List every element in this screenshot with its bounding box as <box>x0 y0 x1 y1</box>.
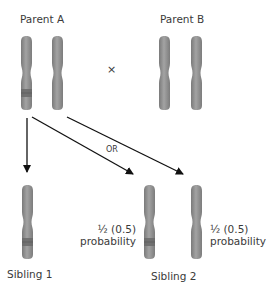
arrow-to-sibling-2-plain <box>67 117 183 174</box>
inheritance-arrows <box>0 0 275 295</box>
sibling-1-label: Sibling 1 <box>7 268 52 280</box>
probability-word: probability <box>210 235 266 247</box>
or-label: OR <box>106 145 118 154</box>
sibling-2-right-probability: ½ (0.5) probability <box>210 223 266 247</box>
sibling-2-label: Sibling 2 <box>151 270 196 282</box>
sibling-1-chromosome <box>21 184 34 260</box>
probability-fraction: ½ (0.5) <box>70 223 136 235</box>
probability-word: probability <box>70 235 136 247</box>
sibling-2-left-probability: ½ (0.5) probability <box>70 223 136 247</box>
probability-fraction: ½ (0.5) <box>210 223 266 235</box>
sibling-2-chromosome-banded <box>143 184 156 260</box>
sibling-2-chromosome-plain <box>190 184 203 260</box>
